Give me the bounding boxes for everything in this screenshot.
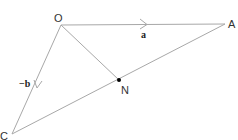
label-vector-a: a [141,29,146,40]
label-O: O [54,12,63,24]
segment-OA [61,24,225,25]
vector-diagram: O A N C a −b [0,0,238,140]
label-C: C [0,130,8,140]
label-N: N [121,84,129,96]
label-vector-minus-b: −b [19,78,31,89]
label-A: A [228,18,236,30]
point-N-dot [117,78,121,82]
segment-ON [61,25,119,80]
